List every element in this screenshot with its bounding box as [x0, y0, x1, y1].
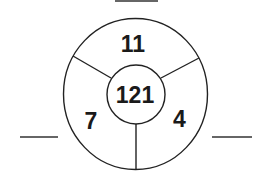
center-value: 121	[116, 82, 155, 108]
segment-value-bottom-right: 4	[173, 106, 186, 132]
segment-value-bottom-left: 7	[85, 108, 98, 134]
spoke-upper-right	[161, 58, 199, 78]
number-wheel-diagram: 11 7 4 121	[0, 0, 270, 183]
spoke-upper-left	[73, 56, 111, 78]
segment-value-top: 11	[121, 31, 146, 57]
